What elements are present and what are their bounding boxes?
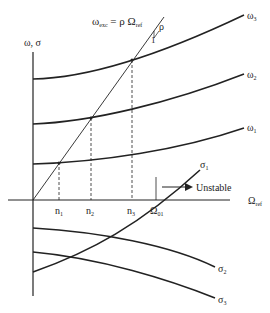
omega-3-label: ω3 — [247, 10, 257, 22]
excitation-label: ωexc = ρ Ωref — [92, 15, 142, 28]
tick-n1: n1 — [55, 205, 63, 217]
x-axis-label: Ωref — [248, 195, 262, 207]
omega-2-curve — [33, 74, 244, 124]
y-axis-label: ω, σ — [24, 37, 42, 48]
omega-2-label: ω2 — [247, 69, 257, 81]
sigma-3-curve — [33, 252, 215, 298]
tick-n3: n3 — [127, 205, 135, 217]
campbell-diagram: ω, σ ωexc = ρ Ωref ρ 1 ω3 ω2 ω1 σ1 σ2 σ3… — [0, 0, 270, 313]
omega-1-curve — [33, 128, 244, 164]
sigma-1-curve — [33, 170, 200, 272]
sigma-2-label: σ2 — [218, 263, 226, 275]
slope-one: 1 — [151, 35, 156, 45]
omega-1-label: ω1 — [247, 122, 257, 134]
unstable-label: Unstable — [196, 182, 232, 193]
excitation-line — [33, 17, 164, 200]
tick-omega01: Ω01 — [150, 205, 163, 217]
tick-n2: n2 — [86, 205, 94, 217]
slope-rho: ρ — [159, 21, 164, 32]
arrow-head-icon — [185, 183, 193, 191]
sigma-1-label: σ1 — [200, 159, 208, 171]
sigma-3-label: σ3 — [218, 294, 226, 306]
